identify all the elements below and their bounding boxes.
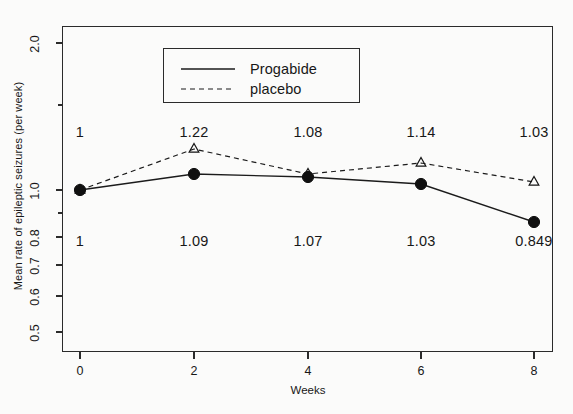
value-label-progabide-8: 0.849: [506, 233, 562, 249]
value-label-progabide-4: 1.07: [283, 233, 333, 249]
x-tick-label-2: 2: [174, 364, 214, 378]
x-tick-label-6: 6: [401, 364, 441, 378]
x-tick-label-0: 0: [60, 364, 100, 378]
value-label-placebo-8: 1.03: [509, 124, 559, 140]
x-tick-label-4: 4: [288, 364, 328, 378]
chart-figure: Mean rate of epileptic seizures (per wee…: [0, 0, 573, 414]
y-axis-title: Mean rate of epileptic seizures (per wee…: [12, 71, 24, 301]
x-axis-title: Weeks: [268, 384, 348, 396]
y-tick-label-0-6: 0.6: [28, 280, 42, 314]
legend-label-placebo: placebo: [250, 81, 302, 97]
value-label-progabide-2: 1.09: [169, 233, 219, 249]
y-tick-label-0-5: 0.5: [28, 316, 42, 350]
value-label-placebo-2: 1.22: [169, 124, 219, 140]
x-tick-marks: [80, 352, 534, 360]
y-tick-label-0-7: 0.7: [28, 249, 42, 283]
legend-label-progabide: Progabide: [250, 61, 317, 77]
series-markers-placebo: [75, 144, 539, 194]
value-label-progabide-0: 1: [55, 233, 105, 249]
value-label-progabide-6: 1.03: [396, 233, 446, 249]
y-tick-label-1-0: 1.0: [28, 174, 42, 208]
y-tick-label-2-0: 2.0: [28, 27, 42, 61]
value-label-placebo-0: 1: [55, 124, 105, 140]
x-tick-label-8: 8: [514, 364, 554, 378]
series-markers-progabide: [74, 168, 539, 227]
y-tick-marks: [56, 43, 63, 332]
value-label-placebo-6: 1.14: [396, 124, 446, 140]
y-minor-tick-marks: [58, 105, 63, 213]
value-label-placebo-4: 1.08: [283, 124, 333, 140]
